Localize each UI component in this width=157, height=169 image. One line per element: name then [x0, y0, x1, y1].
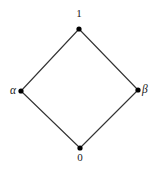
- node-zero: [77, 145, 82, 150]
- node-alpha: [18, 88, 23, 93]
- lattice-diagram: 1 α β 0: [0, 0, 157, 169]
- node-label-one: 1: [74, 8, 84, 19]
- node-label-beta: β: [142, 84, 154, 95]
- node-label-zero: 0: [75, 152, 85, 163]
- lattice-graphic: [0, 0, 157, 169]
- diagram-background: [0, 0, 157, 169]
- node-label-alpha: α: [4, 85, 16, 96]
- node-one: [76, 26, 81, 31]
- node-beta: [135, 87, 140, 92]
